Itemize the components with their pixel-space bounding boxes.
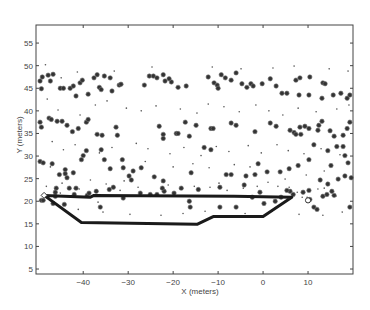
small-point: [296, 191, 298, 193]
small-point: [137, 186, 139, 188]
obstacle-point: [326, 148, 330, 152]
y-tick-label: 20: [24, 197, 33, 206]
obstacle-point: [176, 131, 180, 135]
obstacle-point: [54, 186, 58, 190]
obstacle-point: [318, 178, 322, 182]
small-point: [106, 100, 108, 102]
small-point: [151, 66, 153, 68]
y-tick-label: 5: [29, 265, 34, 274]
obstacle-point: [102, 74, 106, 78]
obstacle-point: [183, 120, 187, 124]
small-point: [303, 153, 305, 155]
obstacle-point: [211, 126, 215, 130]
small-point: [233, 164, 235, 166]
x-tick-label: 0: [261, 278, 266, 287]
obstacle-point: [80, 78, 84, 82]
obstacle-point: [244, 174, 248, 178]
obstacle-point: [321, 194, 325, 198]
obstacle-point: [161, 136, 165, 140]
obstacle-point: [341, 144, 345, 148]
obstacle-point: [223, 76, 227, 80]
small-point: [288, 186, 290, 188]
small-point: [336, 108, 338, 110]
small-point: [192, 163, 194, 165]
obstacle-point: [326, 182, 330, 186]
small-point: [172, 166, 174, 168]
obstacle-point: [194, 123, 198, 127]
obstacle-point: [189, 171, 193, 175]
small-point: [90, 179, 92, 181]
obstacle-point: [71, 84, 75, 88]
obstacle-point: [262, 201, 266, 205]
small-point: [317, 188, 319, 190]
y-tick-label: 25: [24, 175, 33, 184]
obstacle-point: [303, 124, 307, 128]
obstacle-point: [115, 133, 119, 137]
obstacle-point: [161, 73, 165, 77]
small-point: [77, 71, 79, 73]
small-point: [123, 180, 125, 182]
obstacle-point: [129, 178, 133, 182]
obstacle-point: [253, 129, 257, 133]
small-point: [204, 210, 206, 212]
obstacle-point: [86, 117, 90, 121]
small-point: [305, 174, 307, 176]
obstacle-point: [61, 86, 65, 90]
obstacle-point: [110, 89, 114, 93]
small-point: [183, 147, 185, 149]
obstacle-point: [76, 126, 80, 130]
small-point: [160, 214, 162, 216]
x-tick-label: 10: [304, 278, 313, 287]
obstacle-point: [299, 132, 303, 136]
obstacle-point: [312, 143, 316, 147]
x-tick-label: −20: [166, 278, 180, 287]
obstacle-point: [79, 157, 83, 161]
obstacle-point: [308, 75, 312, 79]
obstacle-point: [329, 163, 333, 167]
y-tick-label: 40: [24, 107, 33, 116]
small-point: [276, 144, 278, 146]
small-point: [282, 114, 284, 116]
small-point: [277, 186, 279, 188]
small-point: [267, 181, 269, 183]
small-point: [228, 151, 230, 153]
small-point: [255, 104, 257, 106]
obstacle-point: [307, 93, 311, 97]
obstacle-point: [48, 79, 52, 83]
small-point: [126, 107, 128, 109]
y-tick-label: 45: [24, 84, 33, 93]
y-tick-label: 15: [24, 220, 33, 229]
obstacle-point: [39, 87, 43, 91]
small-point: [348, 104, 350, 106]
small-point: [167, 184, 169, 186]
obstacle-point: [111, 185, 115, 189]
obstacle-point: [218, 185, 222, 189]
obstacle-point: [345, 126, 349, 130]
obstacle-point: [332, 134, 336, 138]
obstacle-point: [114, 125, 118, 129]
obstacle-point: [55, 119, 59, 123]
small-point: [74, 144, 76, 146]
obstacle-point: [60, 119, 64, 123]
small-point: [226, 190, 228, 192]
small-point: [61, 182, 63, 184]
obstacle-point: [325, 192, 329, 196]
obstacle-point: [63, 171, 67, 175]
small-point: [50, 166, 52, 168]
obstacle-point: [160, 186, 164, 190]
obstacle-point: [258, 190, 262, 194]
obstacle-point: [218, 205, 222, 209]
small-point: [97, 201, 99, 203]
small-point: [320, 148, 322, 150]
obstacle-point: [330, 189, 334, 193]
obstacle-point: [245, 85, 249, 89]
obstacle-point: [95, 132, 99, 136]
obstacle-point: [294, 132, 298, 136]
obstacle-point: [273, 199, 277, 203]
obstacle-point: [234, 123, 238, 127]
small-point: [249, 166, 251, 168]
obstacle-point: [196, 187, 200, 191]
obstacle-point: [336, 177, 340, 181]
obstacle-point: [121, 166, 125, 170]
obstacle-point: [323, 82, 327, 86]
